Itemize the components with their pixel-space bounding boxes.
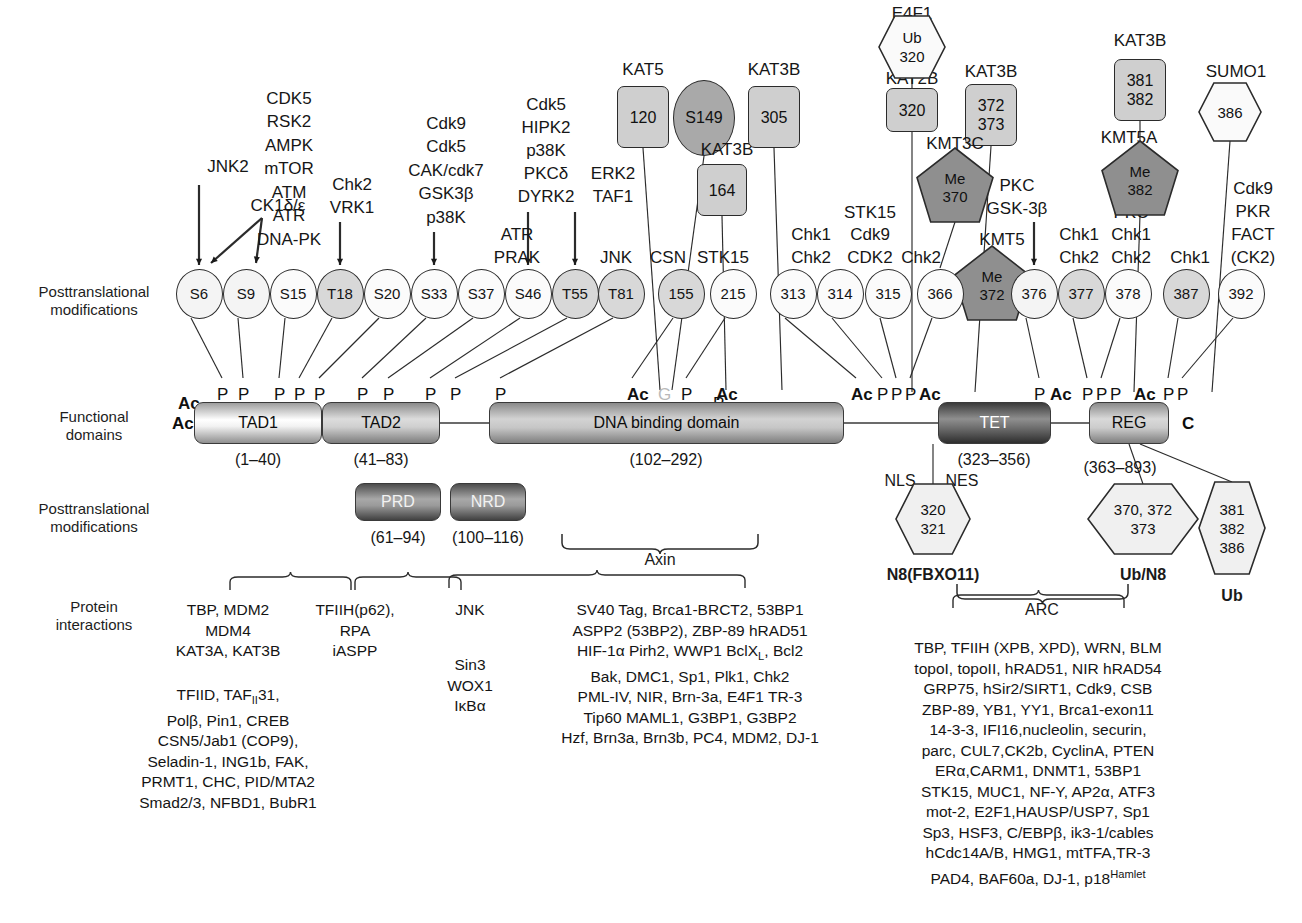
interaction-line: KAT3A, KAT3B bbox=[176, 641, 281, 662]
shape-line: 381 bbox=[1127, 71, 1154, 90]
interaction-brace bbox=[951, 592, 1126, 608]
modifier-enzyme-label: KAT3B bbox=[701, 140, 754, 160]
interaction-line: JNK bbox=[455, 600, 484, 621]
ptm-residue-circle[interactable]: T18 bbox=[317, 269, 364, 319]
shape-line: 382 bbox=[1219, 519, 1244, 538]
kinase-label: Chk2 bbox=[901, 248, 941, 268]
kinase-label: Chk1 bbox=[791, 225, 831, 245]
ptm-type-mark: P bbox=[1163, 385, 1174, 405]
kinase-label: VRK1 bbox=[330, 198, 374, 218]
kinase-label: Chk1 bbox=[1111, 225, 1151, 245]
ptm-residue-circle[interactable]: S33 bbox=[411, 269, 458, 319]
ptm-residue-circle[interactable]: S15 bbox=[270, 269, 317, 319]
kinase-label: Chk2 bbox=[1111, 248, 1151, 268]
ptm-residue-circle[interactable]: 155 bbox=[658, 269, 705, 319]
protein-interaction-list: Sin3WOX1IκBα bbox=[447, 655, 493, 717]
interaction-line: TFIIH(p62), bbox=[315, 600, 394, 621]
ptm-residue-circle[interactable]: 392 bbox=[1218, 269, 1265, 319]
interaction-line: iASPP bbox=[315, 641, 394, 662]
ptm-type-mark: Ac bbox=[851, 385, 873, 405]
interaction-brace bbox=[447, 572, 747, 588]
interaction-line: 14-3-3, IFI16,nucleolin, securin, bbox=[914, 720, 1161, 741]
acetyl-site-square[interactable]: 164 bbox=[697, 164, 747, 216]
kinase-label: STK15 bbox=[697, 248, 749, 268]
ptm-residue-circle[interactable]: 377 bbox=[1058, 269, 1105, 319]
ptm-residue-circle[interactable]: 387 bbox=[1163, 269, 1210, 319]
functional-domain-dna-binding-domain[interactable]: DNA binding domain bbox=[489, 402, 844, 444]
ubiquitination-site-hexagon[interactable]: 370, 372373 bbox=[1088, 484, 1198, 554]
kinase-label: Chk1 bbox=[1059, 225, 1099, 245]
functional-domain-tad1[interactable]: TAD1 bbox=[194, 402, 322, 444]
interaction-line: MDM4 bbox=[176, 621, 281, 642]
sub-domain-nrd[interactable]: NRD bbox=[450, 483, 526, 521]
acetyl-site-square[interactable]: 305 bbox=[748, 86, 800, 148]
kinase-label: JNK2 bbox=[207, 157, 249, 177]
ubiquitination-site-hexagon[interactable]: 381382386 bbox=[1199, 482, 1265, 574]
ubiquitination-site-hexagon[interactable]: 320321 bbox=[896, 484, 970, 554]
interaction-line: RPA bbox=[315, 621, 394, 642]
kinase-label: mTOR bbox=[264, 159, 314, 179]
functional-domain-reg[interactable]: REG bbox=[1089, 402, 1169, 444]
methylation-site-pentagon[interactable]: Me370 bbox=[917, 148, 993, 222]
ptm-type-mark: P bbox=[450, 385, 461, 405]
methylation-site-pentagon[interactable]: Me382 bbox=[1102, 141, 1178, 215]
interaction-line: TFIID, TAFII31, bbox=[139, 685, 316, 711]
modifier-enzyme-label: KAT3B bbox=[748, 60, 801, 80]
row-label-protein-interactions: Protein interactions bbox=[14, 598, 174, 634]
kinase-label: CDK5 bbox=[266, 89, 311, 109]
kinase-label: Cdk5 bbox=[426, 137, 466, 157]
ptm-residue-circle[interactable]: S20 bbox=[364, 269, 411, 319]
interaction-line: ZBP-89, YB1, YY1, Brca1-exon11 bbox=[914, 700, 1161, 721]
kinase-label: JNK bbox=[600, 248, 632, 268]
acetyl-site-square[interactable]: 120 bbox=[617, 86, 669, 148]
ubiquitin-site-hexagon[interactable]: 386 bbox=[1199, 83, 1261, 141]
n-terminal-acetyl-label: Ac bbox=[172, 414, 194, 434]
kinase-label: (CK2) bbox=[1231, 248, 1275, 268]
protein-interaction-list: SV40 Tag, Brca1-BRCT2, 53BP1ASPP2 (53BP2… bbox=[561, 600, 819, 749]
functional-domain-tet[interactable]: TET bbox=[938, 402, 1051, 444]
ptm-residue-circle[interactable]: S9 bbox=[223, 269, 270, 319]
ptm-residue-circle[interactable]: S46 bbox=[505, 269, 552, 319]
interaction-line: PRMT1, CHC, PID/MTA2 bbox=[139, 772, 316, 793]
ptm-residue-circle[interactable]: T55 bbox=[552, 269, 599, 319]
modifier-enzyme-label: KAT5 bbox=[622, 60, 663, 80]
kinase-label: CDK2 bbox=[847, 248, 892, 268]
acetyl-site-square[interactable]: 320 bbox=[886, 88, 938, 132]
interaction-line: parc, CUL7,CK2b, CyclinA, PTEN bbox=[914, 741, 1161, 762]
shape-line: 372 bbox=[979, 286, 1004, 304]
kinase-label: CAK/cdk7 bbox=[408, 161, 484, 181]
interaction-line: Sin3 bbox=[447, 655, 493, 676]
ptm-residue-circle[interactable]: 313 bbox=[770, 269, 817, 319]
interaction-line: PAD4, BAF60a, DJ-1, p18Hamlet bbox=[914, 864, 1161, 890]
ptm-residue-circle[interactable]: 215 bbox=[710, 269, 757, 319]
interaction-line: STK15, MUC1, NF-Y, AP2α, ATF3 bbox=[914, 782, 1161, 803]
protein-interaction-list: TFIID, TAFII31,Polβ, Pin1, CREBCSN5/Jab1… bbox=[139, 685, 316, 813]
row-label-ptm-bottom: Posttranslational modifications bbox=[14, 500, 174, 536]
ptm-residue-circle[interactable]: S37 bbox=[458, 269, 505, 319]
interaction-line: TBP, MDM2 bbox=[176, 600, 281, 621]
kinase-label: STK15 bbox=[844, 203, 896, 223]
ptm-residue-circle[interactable]: 378 bbox=[1105, 269, 1152, 319]
kinase-label: ERK2 bbox=[591, 164, 635, 184]
shape-line: 370, 372 bbox=[1114, 500, 1172, 519]
shape-line: 386 bbox=[1219, 538, 1244, 557]
functional-domain-tad2[interactable]: TAD2 bbox=[322, 402, 440, 444]
ptm-residue-circle[interactable]: T81 bbox=[598, 269, 645, 319]
kinase-label: DNA-PK bbox=[257, 230, 321, 250]
ubiquitin-site-hexagon[interactable]: Ub320 bbox=[879, 16, 945, 78]
protein-interaction-list: TBP, MDM2MDM4KAT3A, KAT3B bbox=[176, 600, 281, 662]
shape-line: 373 bbox=[1130, 519, 1155, 538]
domain-range-label: (100–116) bbox=[452, 529, 524, 547]
ptm-residue-circle[interactable]: 314 bbox=[817, 269, 864, 319]
shape-line: S149 bbox=[685, 109, 722, 127]
kinase-label: GSK3β bbox=[418, 184, 473, 204]
sub-domain-prd[interactable]: PRD bbox=[355, 483, 441, 521]
ptm-residue-circle[interactable]: 376 bbox=[1011, 269, 1058, 319]
row-label-line: interactions bbox=[14, 616, 174, 634]
kinase-label: Chk2 bbox=[332, 175, 372, 195]
ptm-residue-circle[interactable]: S6 bbox=[176, 269, 223, 319]
ptm-residue-circle[interactable]: 366 bbox=[917, 269, 964, 319]
modification-caption: N8(FBXO11) bbox=[887, 566, 979, 584]
acetyl-site-square[interactable]: 381382 bbox=[1114, 59, 1166, 121]
ptm-residue-circle[interactable]: 315 bbox=[865, 269, 912, 319]
